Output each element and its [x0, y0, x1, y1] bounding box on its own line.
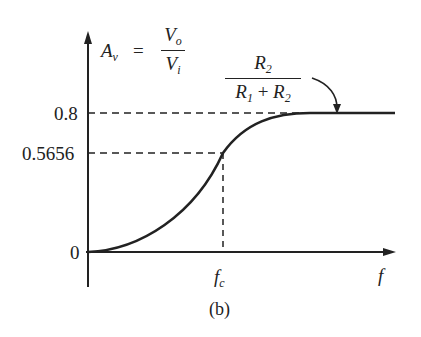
y-axis-arrow-icon	[84, 31, 92, 44]
x-axis-arrow-icon	[383, 248, 396, 256]
tick-label-0: 0	[70, 243, 80, 262]
response-curve	[88, 113, 395, 252]
asymptote-expression: R2 R1 + R2	[225, 53, 301, 104]
x-axis-label: f	[378, 266, 383, 285]
y-axis-label-equals: =	[133, 41, 144, 60]
plot-graphics	[0, 0, 421, 337]
tick-label-0-5656: 0.5656	[22, 144, 74, 163]
annotation-arrow	[312, 78, 337, 108]
tick-label-0-8: 0.8	[54, 104, 78, 123]
figure-caption: (b)	[209, 300, 230, 318]
y-axis-label-fraction: Vo Vi	[161, 25, 185, 76]
y-axis-label-lhs: Av	[101, 41, 118, 63]
high-pass-response-figure: Av = Vo Vi R2 R1 + R2 0.8 0.5656 0 fc f …	[0, 0, 421, 337]
fc-label: fc	[214, 267, 225, 289]
